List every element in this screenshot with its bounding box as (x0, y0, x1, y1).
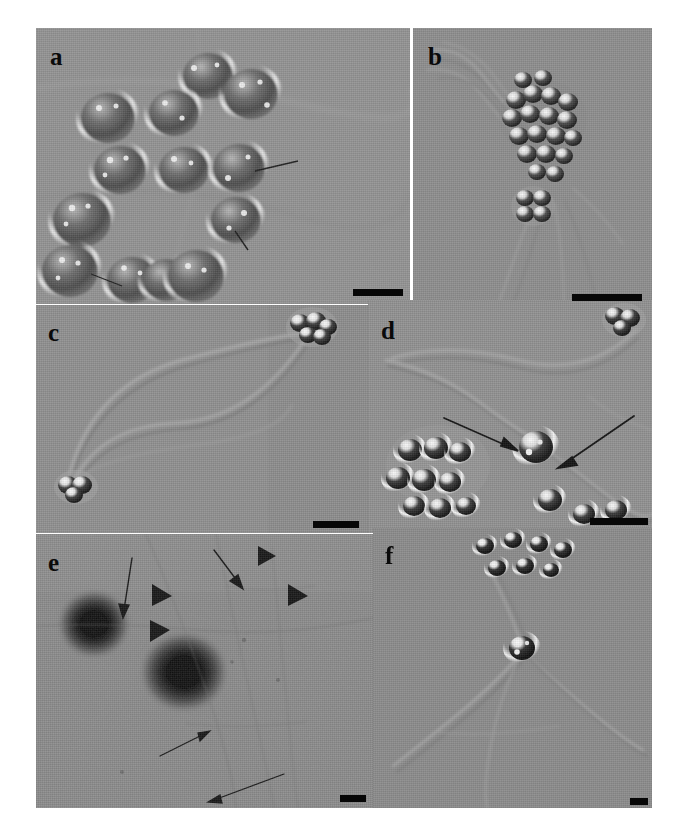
panel-c (36, 305, 368, 533)
panel-a-image (36, 28, 410, 304)
panel-a (36, 28, 410, 304)
panel-d (368, 300, 652, 533)
panel-b (413, 28, 652, 304)
panel-d-image (368, 300, 652, 533)
panel-e-label: e (48, 550, 59, 575)
panel-f-scalebar (630, 798, 648, 805)
panel-c-scalebar (313, 521, 359, 528)
panel-c-image (36, 305, 368, 533)
figure-panel-grid: a (0, 0, 680, 833)
panel-b-image (413, 28, 652, 304)
panel-e-scalebar (340, 795, 366, 802)
panel-b-scalebar (572, 294, 642, 301)
panel-c-label: c (48, 320, 59, 345)
panel-a-label: a (50, 44, 63, 69)
panel-e-image (36, 534, 373, 808)
panel-f-image (373, 528, 652, 808)
panel-d-scalebar (590, 518, 648, 525)
panel-d-label: d (381, 318, 395, 343)
panel-e (36, 534, 373, 808)
panel-f-label: f (385, 543, 393, 568)
panel-b-label: b (428, 44, 442, 69)
panel-f (373, 528, 652, 808)
panel-a-scalebar (353, 289, 403, 296)
